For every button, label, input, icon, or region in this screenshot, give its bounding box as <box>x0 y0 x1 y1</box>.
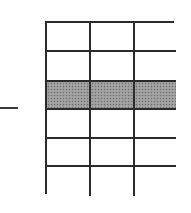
grid-cell <box>91 23 135 52</box>
grid-cell <box>135 23 176 52</box>
grid-cell <box>91 110 135 139</box>
grid-cell <box>135 52 176 82</box>
grid-cell <box>135 139 176 167</box>
grid-cell-highlighted <box>91 82 135 110</box>
grid-cell-highlighted <box>135 82 176 110</box>
grid-cell <box>47 52 91 82</box>
grid-cell <box>47 110 91 139</box>
grid-cell <box>135 110 176 139</box>
grid-cell <box>135 167 176 196</box>
row-marker-dash <box>0 107 18 109</box>
grid-cell <box>47 167 91 196</box>
grid-cell-highlighted <box>47 82 91 110</box>
grid-cell <box>91 167 135 196</box>
grid-cell <box>47 23 91 52</box>
grid-cell <box>47 139 91 167</box>
grid-cell <box>91 139 135 167</box>
grid-table <box>45 21 174 194</box>
grid-cell <box>91 52 135 82</box>
